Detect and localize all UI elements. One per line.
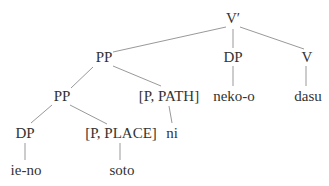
tree-node-dp-obj: DP	[223, 50, 242, 65]
tree-node-ni: ni	[166, 126, 178, 141]
tree-node-v-bar: V′	[226, 11, 240, 26]
edge-ppath-ni	[169, 106, 172, 123]
tree-node-neko-o: neko-o	[213, 89, 255, 104]
tree-node-soto: soto	[109, 163, 134, 178]
edge-pp-outer-ppath	[113, 66, 161, 86]
tree-node-p-path: [P, PATH]	[139, 89, 199, 104]
tree-node-p-place: [P, PLACE]	[85, 126, 157, 141]
tree-node-pp-inner: PP	[54, 89, 71, 104]
edge-vbar-v	[240, 27, 304, 49]
tree-node-dp-inner: DP	[15, 126, 34, 141]
edge-pp-inner-pplace	[70, 105, 107, 124]
edge-pp-outer-pp-inner	[71, 67, 93, 88]
tree-node-ie-no: ie-no	[11, 163, 42, 178]
tree-node-dasu: dasu	[294, 89, 322, 104]
edge-vbar-pp-outer	[113, 27, 226, 52]
tree-node-pp-outer: PP	[96, 50, 113, 65]
syntax-tree-figure: V′ PP DP V PP [P, PATH] neko-o dasu DP […	[0, 0, 329, 186]
tree-node-v-head: V	[302, 50, 313, 65]
edge-pp-inner-dp	[31, 105, 52, 123]
